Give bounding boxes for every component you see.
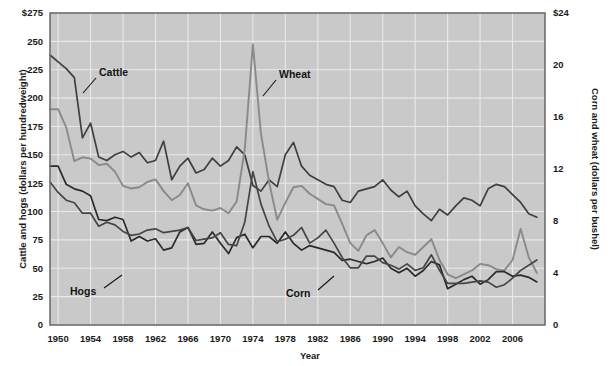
- series-label-wheat: Wheat: [279, 68, 311, 80]
- chart-figure: $2752502252001751501251007550250 $242016…: [0, 0, 613, 366]
- y-tick-right: 4: [553, 267, 559, 278]
- x-tick: 1962: [145, 333, 166, 344]
- y-tick-right: 0: [553, 319, 558, 330]
- y-tick-left: 75: [32, 234, 43, 245]
- series-label-cattle: Cattle: [99, 66, 128, 78]
- series-label-hogs: Hogs: [70, 285, 96, 297]
- y-tick-left: 175: [27, 121, 44, 132]
- x-tick: 2006: [502, 333, 523, 344]
- y-tick-left: 150: [27, 149, 43, 160]
- commodity-prices-line-chart: $2752502252001751501251007550250 $242016…: [0, 0, 613, 366]
- y-tick-right: 8: [553, 215, 558, 226]
- x-tick: 1974: [242, 333, 264, 344]
- x-tick: 1994: [405, 333, 427, 344]
- plot-area-background: [50, 13, 545, 325]
- x-tick: 1970: [210, 333, 231, 344]
- y-tick-left: 0: [38, 319, 43, 330]
- x-axis-ticks: 1950195419581962196619701974197819821986…: [48, 333, 524, 344]
- y-tick-left: 225: [27, 64, 44, 75]
- x-tick: 1990: [372, 333, 393, 344]
- x-axis-title: Year: [300, 350, 320, 361]
- y-axis-left-title: Cattle and hogs (dollars per hundredweig…: [17, 69, 28, 269]
- y-tick-left: 200: [27, 92, 43, 103]
- y-tick-left: $275: [22, 7, 44, 18]
- x-tick: 1982: [307, 333, 328, 344]
- x-tick: 1978: [275, 333, 296, 344]
- series-label-corn: Corn: [286, 287, 311, 299]
- y-tick-left: 250: [27, 36, 43, 47]
- y-tick-left: 50: [32, 263, 43, 274]
- x-tick: 1986: [340, 333, 361, 344]
- y-tick-right: 16: [553, 111, 564, 122]
- x-tick: 1966: [177, 333, 198, 344]
- x-tick: 1998: [437, 333, 458, 344]
- x-tick: 1958: [112, 333, 133, 344]
- y-tick-right: 20: [553, 59, 564, 70]
- y-tick-right: 12: [553, 163, 564, 174]
- x-tick: 1954: [80, 333, 102, 344]
- y-axis-right-title: Corn and wheat (dollars per bushel): [590, 88, 601, 250]
- x-tick: 2002: [470, 333, 491, 344]
- y-tick-right: $24: [553, 7, 570, 18]
- x-tick: 1950: [48, 333, 69, 344]
- y-tick-left: 100: [27, 206, 43, 217]
- y-tick-left: 125: [27, 178, 44, 189]
- y-tick-left: 25: [32, 291, 43, 302]
